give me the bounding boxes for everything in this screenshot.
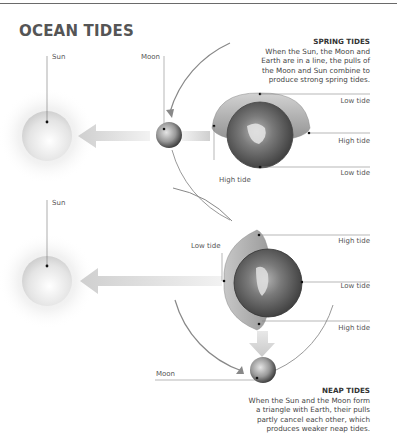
neap-line: a triangle with Earth, their pulls (190, 405, 370, 415)
neap-low-tide-right: Low tide (341, 282, 370, 290)
spring-line: produce strong spring tides. (210, 75, 370, 85)
spring-line: When the Sun, the Moon and (210, 47, 370, 57)
neap-high-tide-bottom: High tide (338, 324, 370, 332)
spring-low-tide-bottom: Low tide (341, 169, 370, 177)
spring-sun-label: Sun (52, 53, 65, 61)
neap-line: When the Sun and the Moon form (190, 396, 370, 406)
spring-high-tide-left: High tide (219, 176, 251, 184)
neap-section (0, 188, 370, 383)
spring-low-tide-top: Low tide (341, 97, 370, 105)
neap-description: NEAP TIDES When the Sun and the Moon for… (190, 386, 370, 434)
neap-line: produces weaker neap tides. (190, 424, 370, 434)
neap-moon (250, 357, 276, 383)
spring-moon-label: Moon (141, 53, 160, 61)
neap-low-tide-left: Low tide (191, 242, 220, 250)
neap-heading: NEAP TIDES (190, 386, 370, 396)
neap-moon-label: Moon (156, 370, 175, 378)
neap-high-tide-top: High tide (338, 237, 370, 245)
spring-description: SPRING TIDES When the Sun, the Moon and … (210, 37, 370, 85)
spring-moon (156, 122, 182, 148)
spring-line: the Moon and Sun combine to (210, 66, 370, 76)
spring-line: Earth are in a line, the pulls of (210, 56, 370, 66)
spring-heading: SPRING TIDES (210, 37, 370, 47)
neap-moon-arrow (249, 331, 275, 357)
neap-sun-label: Sun (52, 199, 65, 207)
neap-pull-arrow (80, 268, 222, 294)
neap-line: partly cancel each other, which (190, 415, 370, 425)
spring-high-tide-right: High tide (338, 137, 370, 145)
